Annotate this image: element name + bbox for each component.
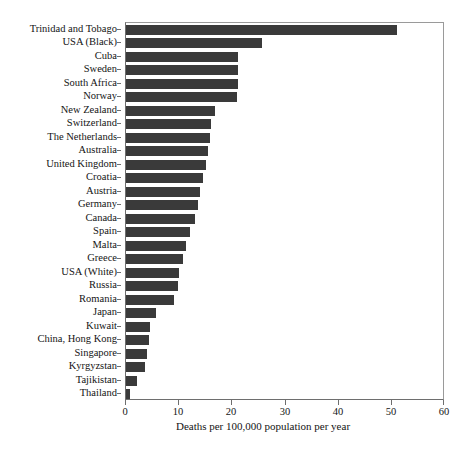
category-tick (117, 258, 121, 259)
category-tick (117, 69, 121, 70)
category-label: Singapore (0, 348, 117, 358)
category-tick (117, 353, 121, 354)
category-tick (117, 231, 121, 232)
category-label: New Zealand (0, 105, 117, 115)
bar (126, 268, 179, 278)
bar (126, 146, 208, 156)
category-tick (117, 312, 121, 313)
category-tick (117, 137, 121, 138)
category-label: Romania (0, 294, 117, 304)
bar (126, 79, 238, 89)
x-axis-tick (443, 400, 444, 405)
bar (126, 322, 150, 332)
category-tick (117, 191, 121, 192)
bar (126, 376, 137, 386)
category-label: USA (Black) (0, 37, 117, 47)
category-tick (117, 110, 121, 111)
category-label: Germany (0, 199, 117, 209)
category-label: United Kingdom (0, 159, 117, 169)
category-tick (117, 299, 121, 300)
category-label: Tajikistan (0, 375, 117, 385)
category-label: Austria (0, 186, 117, 196)
bar (126, 173, 203, 183)
category-tick (117, 56, 121, 57)
category-label: Norway (0, 91, 117, 101)
bar (126, 214, 195, 224)
x-axis-tick-label: 0 (105, 406, 145, 418)
bar (126, 254, 183, 264)
category-label: Japan (0, 307, 117, 317)
x-axis-title: Deaths per 100,000 population per year (0, 420, 471, 432)
category-tick (117, 326, 121, 327)
category-label: Greece (0, 253, 117, 263)
category-tick (117, 96, 121, 97)
category-label: Croatia (0, 172, 117, 182)
bar (126, 38, 262, 48)
category-tick (117, 272, 121, 273)
x-axis-tick (231, 400, 232, 405)
category-tick (117, 218, 121, 219)
bar (126, 335, 149, 345)
x-axis-tick-label: 30 (265, 406, 305, 418)
category-label: Kyrgyzstan (0, 361, 117, 371)
bar (126, 308, 156, 318)
bar (126, 389, 130, 399)
category-label: USA (White) (0, 267, 117, 277)
x-axis-tick (285, 400, 286, 405)
bar (126, 241, 186, 251)
category-label: South Africa (0, 78, 117, 88)
x-axis-tick-label: 60 (424, 406, 464, 418)
category-tick (117, 164, 121, 165)
category-tick (117, 29, 121, 30)
bar (126, 227, 190, 237)
x-axis-tick-label: 10 (158, 406, 198, 418)
category-tick (117, 366, 121, 367)
x-axis-tick (391, 400, 392, 405)
category-tick (117, 380, 121, 381)
category-label: China, Hong Kong (0, 334, 117, 344)
bar (126, 187, 200, 197)
category-axis: Trinidad and TobagoUSA (Black)CubaSweden… (0, 22, 121, 400)
category-label: Sweden (0, 64, 117, 74)
bar-chart: Trinidad and TobagoUSA (Black)CubaSweden… (0, 0, 471, 450)
category-label: Switzerland (0, 118, 117, 128)
category-tick (117, 245, 121, 246)
bar (126, 92, 237, 102)
category-tick (117, 150, 121, 151)
bar (126, 65, 238, 75)
category-label: Malta (0, 240, 117, 250)
bar (126, 295, 174, 305)
bar (126, 52, 238, 62)
category-tick (117, 204, 121, 205)
bar (126, 25, 397, 35)
category-label: Canada (0, 213, 117, 223)
bar (126, 349, 147, 359)
x-axis-tick-label: 50 (371, 406, 411, 418)
bar (126, 133, 210, 143)
bar (126, 106, 215, 116)
category-tick (117, 339, 121, 340)
category-label: Spain (0, 226, 117, 236)
category-label: The Netherlands (0, 132, 117, 142)
category-label: Cuba (0, 51, 117, 61)
bars-layer (126, 23, 443, 399)
plot-area (125, 22, 444, 400)
bar (126, 362, 145, 372)
bar (126, 160, 206, 170)
category-tick (117, 123, 121, 124)
x-axis-tick-label: 20 (211, 406, 251, 418)
category-label: Thailand (0, 388, 117, 398)
x-axis-tick (178, 400, 179, 405)
category-tick (117, 393, 121, 394)
x-axis-tick (125, 400, 126, 405)
x-axis-tick (338, 400, 339, 405)
x-axis-tick-label: 40 (318, 406, 358, 418)
category-tick (117, 177, 121, 178)
bar (126, 200, 198, 210)
category-label: Russia (0, 280, 117, 290)
category-label: Trinidad and Tobago (0, 24, 117, 34)
category-label: Australia (0, 145, 117, 155)
bar (126, 119, 211, 129)
category-tick (117, 83, 121, 84)
category-tick (117, 42, 121, 43)
